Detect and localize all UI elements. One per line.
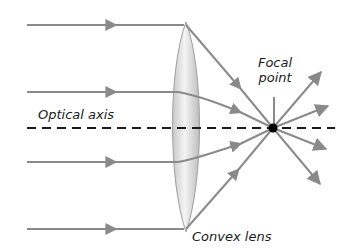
lens-diagram: Optical axis Focal point Convex lens: [0, 0, 349, 249]
focal-point-label: Focal point: [252, 55, 298, 85]
optical-axis-label: Optical axis: [38, 107, 114, 122]
convex-lens-label: Convex lens: [192, 229, 271, 244]
diagram-canvas: [0, 0, 349, 249]
focal-label-line2: point: [252, 70, 298, 85]
focal-label-line1: Focal: [252, 55, 298, 70]
focal-point-dot: [269, 124, 278, 133]
